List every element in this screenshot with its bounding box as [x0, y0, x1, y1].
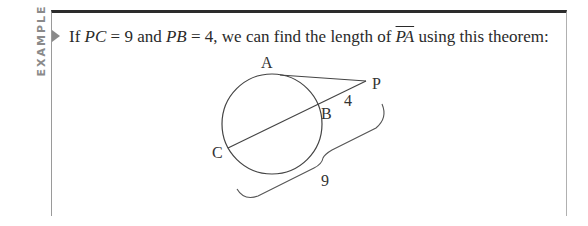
label-pc-length: 9 [321, 172, 329, 189]
circle [222, 74, 322, 174]
label-pb-length: 4 [344, 92, 352, 109]
secant-tangent-diagram: A B C P 4 9 [0, 0, 588, 226]
label-a: A [261, 54, 273, 71]
label-p: P [372, 75, 381, 92]
label-b: B [321, 105, 332, 122]
label-c: C [212, 144, 223, 161]
brace-pc [237, 104, 384, 197]
